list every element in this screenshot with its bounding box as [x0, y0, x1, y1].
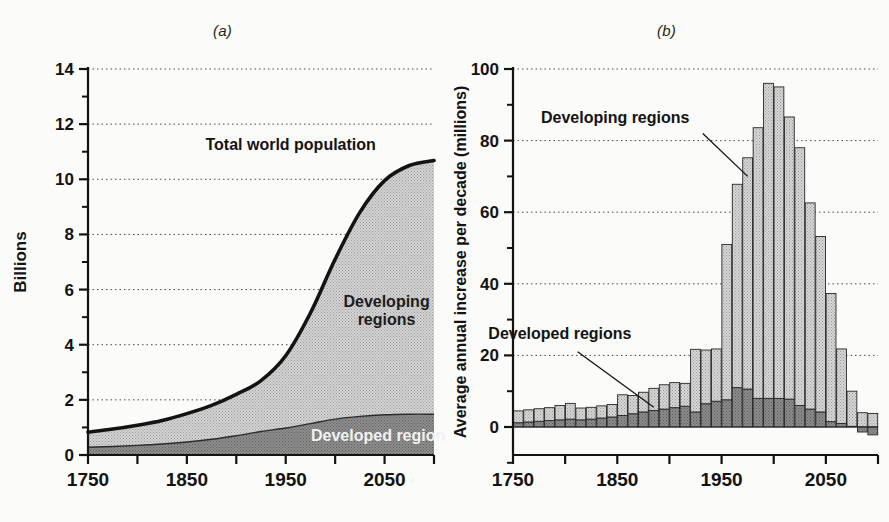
bar-group — [701, 350, 711, 427]
bar-developed — [607, 417, 617, 427]
bar-group — [847, 391, 857, 427]
figure-root: (a) 024681012141750185019502050BillionsT… — [0, 0, 889, 522]
bar-developed — [670, 408, 680, 427]
x-tick-label: 1950 — [265, 469, 307, 490]
bar-developed — [597, 418, 607, 427]
bar-group — [545, 408, 555, 427]
bar-group — [795, 148, 805, 427]
bar-developed — [784, 399, 794, 427]
y-axis-title: Average annual increase per decade (mill… — [452, 86, 469, 438]
panel-b-label: (b) — [444, 22, 889, 39]
bar-developing — [659, 385, 669, 409]
bar-group — [837, 349, 847, 427]
y-tick-label: 0 — [65, 446, 74, 465]
annotation-developed-regions: Developed regions — [311, 427, 445, 444]
bar-group — [628, 395, 638, 427]
bar-developing — [555, 406, 565, 420]
bar-developing — [722, 244, 732, 399]
bar-developing — [774, 87, 784, 398]
bar-developed — [524, 422, 534, 427]
bar-developed — [555, 420, 565, 427]
bar-developed — [576, 420, 586, 427]
panel-b-plot: 0204060801001750185019502050Average annu… — [444, 0, 889, 522]
bar-developed — [816, 412, 826, 427]
x-tick-label: 1850 — [596, 469, 638, 490]
annotation-developed-regions: Developed regions — [488, 325, 631, 342]
bar-group — [555, 406, 565, 427]
bar-developing — [868, 413, 878, 427]
y-tick-label: 8 — [65, 225, 74, 244]
bar-developing — [628, 395, 638, 413]
bar-group — [607, 404, 617, 427]
bar-group — [524, 410, 534, 427]
bar-group — [805, 203, 815, 427]
bar-developed — [805, 409, 815, 427]
bar-group — [764, 83, 774, 427]
bar-developed — [513, 423, 523, 427]
bar-developing — [764, 83, 774, 398]
bar-developed — [649, 411, 659, 427]
bar-developed — [565, 419, 575, 427]
bar-group — [618, 395, 628, 427]
bar-developing — [597, 406, 607, 418]
x-tick-label: 1750 — [492, 469, 534, 490]
bar-developing — [670, 383, 680, 408]
bar-developing — [565, 403, 575, 419]
bar-developing — [576, 408, 586, 420]
bar-group — [753, 128, 763, 427]
bar-developing — [816, 237, 826, 412]
bar-developing — [524, 410, 534, 422]
annotation-developing-regions-line2: regions — [358, 311, 416, 328]
y-tick-label: 20 — [480, 346, 499, 365]
bar-group — [691, 349, 701, 427]
y-tick-label: 60 — [480, 203, 499, 222]
y-tick-label: 4 — [65, 336, 75, 355]
bar-developed-negative — [868, 427, 878, 435]
bar-group — [816, 237, 826, 427]
bar-developed — [545, 421, 555, 427]
x-tick-label: 2050 — [805, 469, 847, 490]
bar-developed — [753, 398, 763, 427]
y-axis-title: Billions — [11, 231, 30, 292]
bar-developing — [805, 203, 815, 409]
bar-developing — [753, 128, 763, 399]
bar-developing — [857, 413, 867, 427]
bar-developed — [826, 422, 836, 427]
bar-developed — [701, 404, 711, 427]
x-tick-label: 1850 — [166, 469, 208, 490]
y-tick-label: 2 — [65, 391, 74, 410]
bar-developing — [680, 383, 690, 406]
y-tick-label: 10 — [55, 170, 74, 189]
bar-developed — [743, 389, 753, 427]
bar-developing — [607, 404, 617, 417]
bar-developing — [837, 349, 847, 423]
bar-developed — [691, 412, 701, 427]
bar-group — [857, 413, 867, 432]
bar-group — [649, 388, 659, 427]
bar-group — [534, 409, 544, 427]
bar-developing — [586, 407, 596, 419]
bar-developing — [534, 409, 544, 422]
y-tick-label: 100 — [471, 60, 499, 79]
bar-developed — [732, 388, 742, 427]
bar-group — [680, 383, 690, 427]
leader-line-developed — [578, 352, 654, 407]
bar-group — [513, 411, 523, 427]
y-tick-label: 80 — [480, 132, 499, 151]
bar-group — [670, 383, 680, 427]
bar-group — [597, 406, 607, 427]
x-tick-label: 2050 — [363, 469, 405, 490]
bar-group — [722, 244, 732, 427]
bar-developed — [534, 421, 544, 427]
bar-developed — [628, 414, 638, 427]
panel-a-plot: 024681012141750185019502050BillionsTotal… — [0, 0, 445, 522]
bar-developed — [774, 398, 784, 427]
panel-b: (b) 0204060801001750185019502050Average … — [444, 0, 889, 522]
bar-group — [774, 87, 784, 427]
bar-developed — [638, 412, 648, 427]
bar-group — [711, 349, 721, 427]
y-tick-label: 6 — [65, 281, 74, 300]
bar-developing — [784, 117, 794, 399]
y-tick-label: 0 — [490, 418, 499, 437]
annotation-total-world-population: Total world population — [205, 136, 375, 153]
